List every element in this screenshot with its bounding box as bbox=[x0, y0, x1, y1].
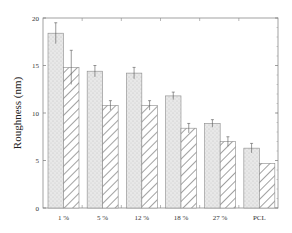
y-tick-label: 10 bbox=[32, 110, 40, 118]
bar-hatched bbox=[142, 105, 158, 208]
y-tick-label: 15 bbox=[32, 62, 40, 70]
bar-stippled bbox=[87, 71, 103, 208]
x-category-label: 5 % bbox=[97, 214, 108, 222]
bar-hatched bbox=[181, 128, 197, 208]
y-tick-label: 5 bbox=[36, 157, 40, 165]
x-category-label: 12 % bbox=[135, 214, 150, 222]
bar-hatched bbox=[64, 67, 80, 208]
bar-stippled bbox=[126, 73, 142, 208]
bar-stippled bbox=[48, 33, 64, 208]
bar-hatched bbox=[103, 105, 119, 208]
bar-stippled bbox=[166, 96, 182, 208]
bar-stippled bbox=[244, 148, 259, 208]
bar-stippled bbox=[205, 123, 221, 208]
bar-hatched bbox=[259, 163, 275, 208]
y-tick-label: 20 bbox=[32, 15, 40, 23]
bar-hatched bbox=[220, 142, 236, 209]
x-category-label: 1 % bbox=[58, 214, 69, 222]
x-category-label: 27 % bbox=[213, 214, 228, 222]
y-axis-title: Roughness (nm) bbox=[11, 76, 24, 149]
bars-group bbox=[48, 23, 275, 208]
y-tick-label: 0 bbox=[36, 205, 40, 213]
x-category-label: PCL bbox=[253, 214, 266, 222]
bar-chart: 05101520 1 %5 %12 %18 %27 %PCL Roughness… bbox=[0, 0, 292, 233]
x-category-label: 18 % bbox=[174, 214, 189, 222]
